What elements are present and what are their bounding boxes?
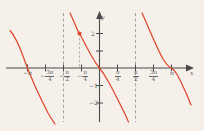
fraction-3pi-over-4-right: 3π 4: [149, 70, 158, 82]
fraction-denominator: 2: [133, 77, 139, 83]
x-tick-label-pi-over-4: π 4: [115, 70, 121, 82]
fraction-denominator: 4: [45, 77, 54, 83]
x-tick-label-neg-3pi-over-4: − 3π 4: [40, 70, 54, 82]
trig-graph-figure: y x −π − 3π 4 − π 2 − π 4: [0, 0, 204, 131]
fraction-pi-over-2-left: π 2: [64, 70, 70, 82]
minus-sign-pi-over-4-left: −: [77, 73, 82, 79]
x-axis-label: x: [190, 70, 193, 76]
fraction-pi-over-2-right: π 2: [133, 70, 139, 82]
minus-sign-3pi-over-4: −: [40, 73, 45, 79]
x-tick-label-3pi-over-4: 3π 4: [149, 70, 158, 82]
x-tick-label-neg-pi: −π: [23, 70, 32, 76]
x-tick-label-pi-text: π: [170, 69, 174, 76]
x-tick-label-neg-pi-over-4: − π 4: [77, 70, 88, 82]
y-tick-label-neg-2: −2: [89, 100, 98, 106]
fraction-pi-over-4-right: π 4: [115, 70, 121, 82]
x-tick-label-pi: π: [170, 70, 174, 76]
y-tick-label-neg-1: −1: [89, 83, 98, 89]
fraction-3pi-over-4: 3π 4: [45, 70, 54, 82]
curve-branch-right: [142, 13, 191, 105]
y-tick-label-2: 2: [91, 31, 95, 37]
fraction-denominator: 4: [82, 77, 88, 83]
x-tick-label-neg-pi-over-2: − π 2: [59, 70, 70, 82]
fraction-denominator: 4: [149, 77, 158, 83]
x-tick-label-pi-over-2: π 2: [133, 70, 139, 82]
y-axis-label: y: [101, 14, 104, 20]
minus-sign-pi-over-2-left: −: [59, 73, 64, 79]
x-tick-label-neg-pi-text: −π: [23, 70, 32, 76]
fraction-denominator: 2: [64, 77, 70, 83]
marker-dot-point: [77, 31, 81, 35]
fraction-pi-over-4-left: π 4: [82, 70, 88, 82]
fraction-denominator: 4: [115, 77, 121, 83]
